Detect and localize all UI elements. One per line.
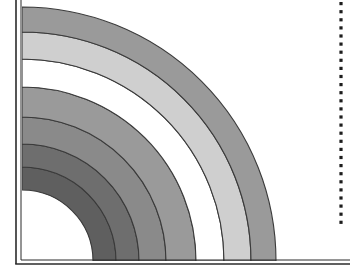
reference-line-dot <box>339 99 342 102</box>
reference-line-dot <box>339 132 342 135</box>
reference-line-dot <box>339 196 342 199</box>
reference-line-dot <box>339 172 342 175</box>
concentric-arc-band-chart <box>0 0 350 273</box>
reference-line-dot <box>339 59 342 62</box>
reference-line-dot <box>339 213 342 216</box>
reference-line-dot <box>339 18 342 21</box>
reference-line-dot <box>339 188 342 191</box>
reference-line-dot <box>339 140 342 143</box>
reference-line-dot <box>339 205 342 208</box>
reference-line-dot <box>339 26 342 29</box>
reference-line-dot <box>339 67 342 70</box>
figure-root <box>0 0 350 273</box>
reference-line-dot <box>339 124 342 127</box>
reference-line-dot <box>339 91 342 94</box>
reference-line-dot <box>339 51 342 54</box>
reference-line-dot <box>339 83 342 86</box>
reference-line-dot <box>339 164 342 167</box>
reference-line-dot <box>339 75 342 78</box>
reference-line-dot <box>339 107 342 110</box>
reference-line-dot <box>339 43 342 46</box>
reference-line-dot <box>339 115 342 118</box>
reference-line-dot <box>339 221 342 224</box>
reference-line-dot <box>339 180 342 183</box>
reference-line-dot <box>339 34 342 37</box>
reference-line-dot <box>339 2 342 5</box>
reference-line-dot <box>339 10 342 13</box>
reference-line-dot <box>339 148 342 151</box>
reference-line-dot <box>339 156 342 159</box>
